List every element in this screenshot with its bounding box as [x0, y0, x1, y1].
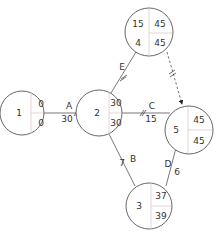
node-2: 2 30 30 [76, 90, 122, 136]
node-2-early: 30 [110, 98, 122, 108]
node-5: 5 45 45 [165, 106, 213, 154]
edge-C-label: C [149, 101, 155, 111]
node-4-late: 45 [154, 38, 165, 48]
edge-E [111, 52, 136, 93]
node-4-early: 45 [154, 19, 165, 29]
node-2-id: 2 [94, 108, 100, 118]
edge-C-duration: 15 [145, 114, 156, 124]
node-5-id: 5 [173, 125, 179, 135]
node-3-early: 37 [155, 191, 166, 201]
edge-A-label: A [66, 101, 73, 111]
node-5-late: 45 [193, 136, 204, 146]
edge-A-duration: 30 [61, 114, 73, 124]
node-3-id: 3 [136, 201, 142, 211]
node-1-early: 0 [38, 99, 44, 109]
node-4-extra: 15 [132, 19, 143, 29]
node-4-id: 4 [135, 38, 141, 48]
dummy-edge [167, 52, 182, 104]
network-diagram: A 30 E C 15 B 7 D 6 1 0 0 2 30 30 15 4 [0, 0, 221, 239]
edge-D-duration: 6 [174, 167, 180, 177]
node-1: 1 0 0 [0, 91, 44, 135]
edge-E-label: E [119, 62, 125, 72]
edge-B-label: B [130, 154, 136, 164]
node-3-late: 39 [155, 211, 167, 221]
node-3: 3 37 39 [126, 183, 172, 229]
critical-mark-dummy [170, 73, 176, 77]
node-1-id: 1 [16, 108, 22, 118]
node-1-late: 0 [38, 118, 44, 128]
node-4: 15 4 45 45 [125, 8, 173, 56]
node-5-early: 45 [193, 115, 204, 125]
edge-D-label: D [165, 159, 172, 169]
edge-B-duration: 7 [119, 158, 125, 168]
node-2-late: 30 [110, 118, 122, 128]
